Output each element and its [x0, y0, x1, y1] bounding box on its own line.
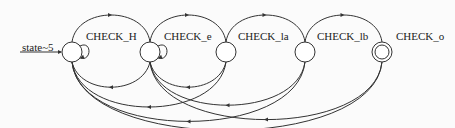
arrowhead-s2-s1: [186, 85, 190, 89]
arrowhead-s3-s1: [226, 103, 230, 107]
transition-s4-s1: [150, 62, 382, 120]
state-label-check-e: CHECK_e: [164, 30, 212, 42]
arrowhead-s1-s0: [109, 85, 113, 89]
state-diagram: state~5 CHECK_H CHECK_e CHECK_la CHECK_l…: [0, 0, 455, 128]
transition-s1-s0: [72, 62, 150, 87]
state-label-check-lb: CHECK_lb: [317, 30, 369, 42]
state-label-check-la: CHECK_la: [238, 30, 289, 42]
arrowhead-s2-s3: [263, 13, 267, 17]
state-label-check-o: CHECK_o: [396, 30, 445, 42]
transition-s3-s1: [150, 62, 305, 105]
accepting-ring: [375, 45, 389, 59]
initial-arrowhead: [58, 50, 62, 54]
arrowhead-s0-s1: [108, 13, 112, 17]
state-node-check-la: [216, 42, 236, 62]
diagram-canvas: state~5 CHECK_H CHECK_e CHECK_la CHECK_l…: [0, 0, 455, 128]
transition-s3-s0: [72, 62, 305, 121]
arrowhead-s3-s4: [341, 13, 345, 17]
state-label-check-h: CHECK_H: [86, 30, 137, 42]
state-node-check-e: [140, 42, 160, 62]
state-node-check-h: [62, 42, 82, 62]
initial-label: state~5: [22, 41, 54, 53]
arrowhead-s1-s2: [185, 13, 189, 17]
arrowhead-s3-s0: [187, 119, 191, 123]
state-node-check-lb: [295, 42, 315, 62]
arrowhead-s2-s0: [147, 105, 151, 109]
arrowhead-s4-s1: [264, 118, 268, 122]
